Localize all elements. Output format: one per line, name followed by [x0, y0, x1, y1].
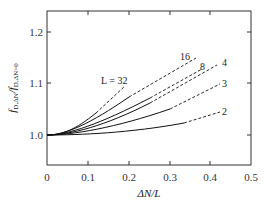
curves-solid [47, 97, 184, 135]
x-tick-0.3: 0.3 [163, 171, 177, 183]
x-axis-label: ΔN/L [137, 187, 161, 199]
curve-label-16: 16 [180, 51, 190, 62]
curve-L16-solid [47, 97, 129, 135]
y-label-den-sub: D,ΔN=0 [12, 63, 20, 87]
y-ticks [47, 32, 251, 135]
y-axis-label: fD,ΔN/fD,ΔN=0 [6, 63, 20, 113]
x-tick-0.1: 0.1 [81, 171, 95, 183]
curve-L2-dashed [184, 112, 220, 123]
curve-label-2: 2 [222, 106, 227, 117]
x-tick-0: 0 [44, 171, 50, 183]
plot-frame [47, 11, 251, 165]
x-tick-0.5: 0.5 [244, 171, 258, 183]
chart: 0 0.1 0.2 0.3 0.4 0.5 1.0 1.1 1.2 ΔN/L f… [0, 0, 268, 203]
y-tick-1.1: 1.1 [29, 77, 43, 89]
curve-label-L32: L = 32 [101, 75, 127, 86]
curve-L8-dashed [150, 69, 202, 98]
svg-text:fD,ΔN/fD,ΔN=0: fD,ΔN/fD,ΔN=0 [6, 63, 20, 113]
curve-label-4: 4 [222, 57, 227, 68]
x-tick-0.4: 0.4 [203, 171, 217, 183]
x-ticks [88, 11, 210, 165]
x-tick-0.2: 0.2 [122, 171, 136, 183]
curve-label-3: 3 [222, 78, 227, 89]
y-tick-1.2: 1.2 [29, 26, 43, 38]
y-label-num-sub: D,ΔN [12, 93, 20, 109]
y-tick-1.0: 1.0 [29, 129, 43, 141]
curve-L4-dashed [150, 65, 217, 103]
curve-label-8: 8 [200, 61, 205, 72]
